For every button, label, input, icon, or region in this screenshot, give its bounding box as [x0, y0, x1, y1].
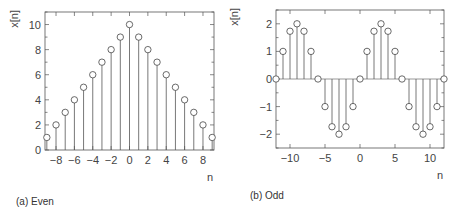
x-tick-label: 6	[182, 154, 188, 166]
x-tick-label: −5	[319, 152, 332, 164]
x-tick-label: 10	[424, 152, 436, 164]
odd-signal-plot: −2−1012−10−50510nx[n]	[228, 8, 447, 181]
caption-even: (a) Even	[16, 196, 54, 207]
y-tick-label: 1	[266, 45, 272, 57]
stem-marker	[172, 84, 178, 90]
stem-marker	[371, 28, 377, 34]
stem-marker	[117, 34, 123, 40]
stem-marker	[399, 76, 405, 82]
y-axis-label: x[n]	[228, 8, 240, 26]
stem-marker	[413, 124, 419, 130]
stem-marker	[209, 134, 215, 140]
stem-marker	[108, 46, 114, 52]
y-tick-label: 8	[35, 44, 41, 56]
y-tick-label: 10	[29, 19, 41, 31]
stem-marker	[126, 21, 132, 27]
y-tick-label: 0	[35, 144, 41, 156]
stem-marker	[420, 131, 426, 137]
stem-marker	[329, 124, 335, 130]
even-signal-plot: 0246810−8−6−4−202468nx[n]	[8, 10, 215, 183]
stem-marker	[80, 84, 86, 90]
x-tick-label: −10	[281, 152, 300, 164]
stem-marker	[343, 124, 349, 130]
stem-marker	[71, 97, 77, 103]
stem-marker	[350, 103, 356, 109]
stem-marker	[336, 131, 342, 137]
x-tick-label: −8	[50, 154, 63, 166]
stem-marker	[441, 76, 447, 82]
stem-marker	[90, 72, 96, 78]
stem-marker	[181, 97, 187, 103]
stem-marker	[357, 76, 363, 82]
x-tick-label: 0	[126, 154, 132, 166]
stem-marker	[53, 122, 59, 128]
x-tick-label: −6	[68, 154, 81, 166]
y-tick-label: 4	[35, 94, 41, 106]
stem-marker	[99, 59, 105, 65]
figure-canvas: 0246810−8−6−4−202468nx[n] −2−1012−10−505…	[0, 0, 450, 215]
stem-marker	[308, 48, 314, 54]
x-tick-label: 5	[392, 152, 398, 164]
stem-marker	[62, 109, 68, 115]
y-tick-label: −1	[259, 101, 272, 113]
stem-marker	[191, 109, 197, 115]
stem-marker	[378, 21, 384, 27]
y-tick-label: 2	[266, 18, 272, 30]
stem-marker	[294, 21, 300, 27]
x-tick-label: −4	[86, 154, 99, 166]
stem-marker	[301, 28, 307, 34]
x-axis-label: n	[437, 169, 443, 181]
stem-marker	[392, 48, 398, 54]
stem-marker	[44, 134, 50, 140]
stem-marker	[287, 28, 293, 34]
stem-marker	[273, 76, 279, 82]
x-axis-label: n	[207, 171, 213, 183]
caption-odd: (b) Odd	[250, 190, 284, 201]
stem-marker	[322, 103, 328, 109]
stem-marker	[364, 48, 370, 54]
stem-marker	[315, 76, 321, 82]
x-tick-label: 2	[145, 154, 151, 166]
y-tick-label: 2	[35, 119, 41, 131]
x-tick-label: −2	[105, 154, 118, 166]
x-tick-label: 4	[163, 154, 169, 166]
y-tick-label: −2	[259, 128, 272, 140]
stem-marker	[427, 124, 433, 130]
stem-marker	[163, 72, 169, 78]
stem-marker	[280, 48, 286, 54]
stem-marker	[200, 122, 206, 128]
stem-marker	[434, 103, 440, 109]
stem-marker	[385, 28, 391, 34]
x-tick-label: 0	[357, 152, 363, 164]
x-tick-label: 8	[200, 154, 206, 166]
stem-marker	[406, 103, 412, 109]
stem-marker	[135, 34, 141, 40]
stem-marker	[154, 59, 160, 65]
y-axis-label: x[n]	[8, 10, 20, 28]
y-tick-label: 6	[35, 69, 41, 81]
stem-marker	[145, 46, 151, 52]
y-tick-label: 0	[266, 73, 272, 85]
